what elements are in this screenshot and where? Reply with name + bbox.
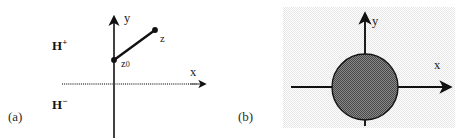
figure-canvas xyxy=(0,0,470,140)
panel-a-upper-half-plane-label: H+ xyxy=(52,38,67,54)
panel-a-point-z0 xyxy=(111,57,117,63)
panel-b-x-axis-label: x xyxy=(434,58,440,73)
panel-a-point-z0-label: z0 xyxy=(121,58,130,69)
panel-a xyxy=(62,17,205,138)
panel-a-upper-half-plane-sign: + xyxy=(62,37,67,47)
panel-b-disk xyxy=(332,54,398,120)
panel-a-caption: (a) xyxy=(8,109,22,125)
panel-a-point-z xyxy=(152,27,158,33)
panel-a-lower-half-plane-sign: − xyxy=(62,96,67,106)
panel-b-caption: (b) xyxy=(238,109,253,125)
panel-a-y-axis-label: y xyxy=(124,11,130,26)
panel-a-segment-z0-z xyxy=(114,30,155,60)
panel-a-point-z-label: z xyxy=(160,33,165,44)
panel-a-lower-half-plane-base: H xyxy=(52,97,62,112)
panel-a-point-z0-label-subscript: 0 xyxy=(126,60,130,69)
panel-b-y-axis-label: y xyxy=(372,14,378,29)
panel-b xyxy=(283,7,455,128)
panel-a-x-axis-label: x xyxy=(190,65,196,80)
panel-a-lower-half-plane-label: H− xyxy=(52,97,67,113)
panel-a-upper-half-plane-base: H xyxy=(52,38,62,53)
